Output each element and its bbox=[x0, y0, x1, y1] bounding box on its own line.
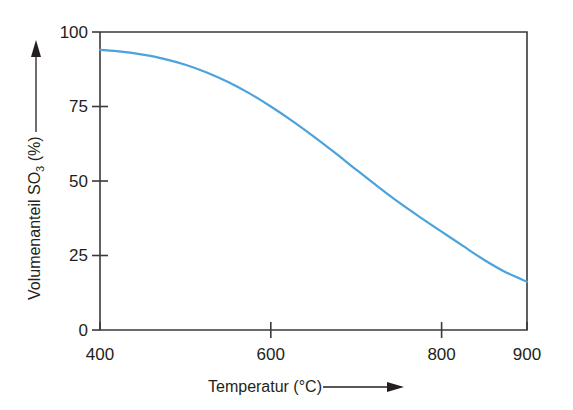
y-tick-label-50: 50 bbox=[69, 172, 88, 191]
x-axis-title: Temperatur (°C) bbox=[208, 378, 322, 395]
x-tick-label-800: 800 bbox=[427, 345, 455, 364]
y-tick-label-25: 25 bbox=[69, 246, 88, 265]
y-tick-label-100: 100 bbox=[60, 23, 88, 42]
y-axis-title-main: Volumenanteil SO bbox=[26, 172, 43, 300]
x-axis-tick-labels: 400 600 800 900 bbox=[86, 345, 541, 364]
y-tick-label-75: 75 bbox=[69, 97, 88, 116]
y-axis-title: Volumenanteil SO3 (%) bbox=[26, 136, 46, 300]
chart-canvas: 100 75 50 25 0 400 600 800 900 bbox=[0, 0, 573, 410]
y-axis-title-unit: (%) bbox=[26, 136, 43, 165]
x-tick-label-400: 400 bbox=[86, 345, 114, 364]
data-curve-so3 bbox=[100, 50, 527, 282]
y-axis-arrow-icon bbox=[31, 40, 41, 132]
x-axis-title-group: Temperatur (°C) bbox=[208, 378, 404, 395]
y-tick-label-0: 0 bbox=[79, 321, 88, 340]
x-axis-arrow-icon bbox=[323, 382, 404, 392]
data-series-group bbox=[100, 50, 527, 282]
y-axis-tick-labels: 100 75 50 25 0 bbox=[60, 23, 88, 340]
chart-figure: 100 75 50 25 0 400 600 800 900 bbox=[0, 0, 573, 410]
plot-frame bbox=[100, 32, 527, 330]
y-axis-title-group: Volumenanteil SO3 (%) bbox=[26, 40, 46, 300]
x-tick-label-600: 600 bbox=[257, 345, 285, 364]
x-tick-label-900: 900 bbox=[513, 345, 541, 364]
